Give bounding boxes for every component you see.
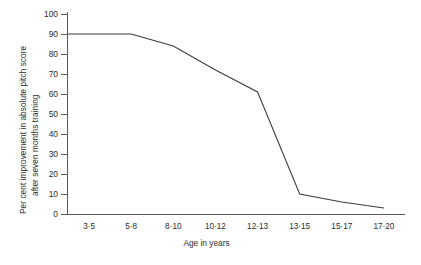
series-layer: [0, 0, 421, 265]
chart-container: Per cent improvement in absolute pitch s…: [0, 0, 421, 265]
data-series-line: [68, 34, 384, 208]
